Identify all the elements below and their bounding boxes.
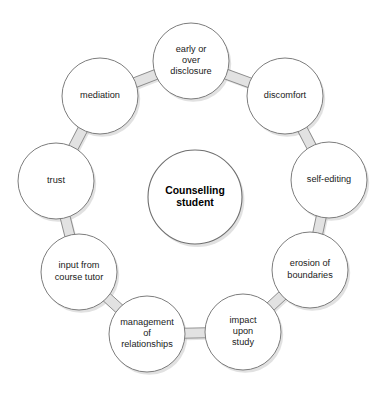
node-label-line: course tutor (55, 272, 104, 282)
node-mediation[interactable]: mediation (62, 58, 138, 134)
node-label-line: student (176, 197, 214, 208)
node-label-line: relationships (121, 340, 173, 350)
node-label-line: trust (47, 175, 65, 185)
node-early-or-over-disclosure[interactable]: early oroverdisclosure (153, 23, 229, 99)
node-management-of-relationships[interactable]: managementofrelationships (109, 296, 185, 372)
node-trust[interactable]: trust (18, 143, 94, 219)
node-label-line: study (232, 338, 254, 348)
node-label-line: upon (233, 326, 253, 336)
node-counselling-student[interactable]: Counsellingstudent (148, 150, 242, 244)
node-label-line: self-editing (307, 174, 351, 184)
node-label-discomfort: discomfort (264, 90, 307, 100)
node-label-erosion-of-boundaries: erosion ofboundaries (287, 259, 333, 280)
node-label-line: discomfort (264, 90, 307, 100)
node-label-line: management (120, 317, 174, 327)
node-label-line: boundaries (287, 270, 333, 280)
node-label-line: mediation (80, 90, 120, 100)
node-label-line: over (182, 55, 200, 65)
node-layer: early oroverdisclosurediscomfortself-edi… (18, 23, 367, 372)
node-impact-upon-study[interactable]: impactuponstudy (205, 294, 281, 370)
node-label-line: erosion of (290, 259, 331, 269)
connector-impact-upon-study-to-management-of-relationships (183, 328, 206, 338)
node-erosion-of-boundaries[interactable]: erosion ofboundaries (272, 232, 348, 308)
node-label-line: early or (176, 44, 207, 54)
node-label-line: disclosure (170, 67, 211, 77)
node-discomfort[interactable]: discomfort (247, 58, 323, 134)
node-label-line: impact (229, 315, 257, 325)
node-input-from-course-tutor[interactable]: input fromcourse tutor (41, 234, 117, 310)
node-label-line: Counselling (165, 184, 224, 195)
node-label-trust: trust (47, 175, 65, 185)
node-self-editing[interactable]: self-editing (291, 142, 367, 218)
node-label-self-editing: self-editing (307, 174, 351, 184)
diagram-canvas: early oroverdisclosurediscomfortself-edi… (0, 0, 385, 394)
node-label-line: of (143, 328, 151, 338)
node-label-line: input from (59, 261, 100, 271)
node-label-input-from-course-tutor: input fromcourse tutor (55, 261, 104, 282)
node-label-mediation: mediation (80, 90, 120, 100)
node-label-impact-upon-study: impactuponstudy (229, 315, 257, 348)
cycle-diagram: early oroverdisclosurediscomfortself-edi… (0, 0, 385, 394)
